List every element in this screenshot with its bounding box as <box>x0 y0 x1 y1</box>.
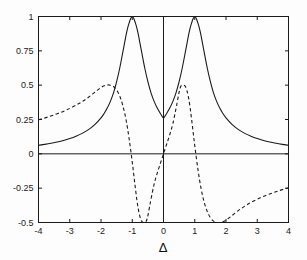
x-tick-label: -3 <box>66 226 74 236</box>
x-tick-label: 3 <box>255 226 260 236</box>
x-axis-tick-labels: -4-3-2-101234 <box>34 226 291 236</box>
x-axis-title: Δ <box>159 240 168 255</box>
x-tick-label: 2 <box>223 226 228 236</box>
y-axis-tick-labels: -0.5-0.2500.250.50.751 <box>13 12 34 228</box>
figure-canvas: -4-3-2-101234 -0.5-0.2500.250.50.751 Δ <box>0 0 307 260</box>
x-tick-label: 0 <box>161 226 166 236</box>
y-tick-label: 0.5 <box>21 80 34 90</box>
y-tick-label: 0.75 <box>16 46 34 56</box>
y-tick-label: -0.5 <box>18 218 34 228</box>
y-tick-label: 1 <box>28 12 33 22</box>
y-tick-label: 0 <box>28 149 33 159</box>
x-tick-label: 4 <box>286 226 291 236</box>
zero-reference-lines <box>39 17 289 223</box>
x-tick-label: -2 <box>97 226 105 236</box>
y-tick-label: -0.25 <box>13 183 34 193</box>
y-tick-label: 0.25 <box>16 115 34 125</box>
chart-plot: -4-3-2-101234 -0.5-0.2500.250.50.751 Δ <box>0 0 307 260</box>
x-tick-label: 1 <box>192 226 197 236</box>
x-tick-label: -1 <box>128 226 136 236</box>
x-tick-label: -4 <box>34 226 42 236</box>
